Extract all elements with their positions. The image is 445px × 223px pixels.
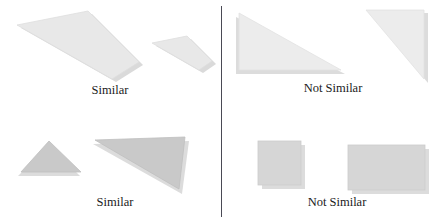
small-triangle-shadow <box>18 145 80 176</box>
large-quadrilateral <box>17 11 139 79</box>
large-triangle-shadow <box>93 141 189 194</box>
caption-bottom-right: Not Similar <box>262 195 412 209</box>
wide-rectangle <box>348 145 425 190</box>
caption-bottom-left: Similar <box>60 195 170 209</box>
right-triangle-tall <box>366 10 424 79</box>
small-square-shadow <box>262 145 305 189</box>
shapes-canvas <box>0 0 445 223</box>
small-triangle <box>21 141 81 172</box>
shape-group-top-left <box>17 11 216 82</box>
caption-top-left: Similar <box>55 83 165 97</box>
small-quadrilateral <box>152 36 212 70</box>
small-quadrilateral-shadow <box>156 39 216 73</box>
shape-group-bottom-left <box>18 137 189 194</box>
shape-group-top-right <box>236 10 428 83</box>
right-triangle-wide-shadow <box>236 17 345 74</box>
caption-top-right: Not Similar <box>258 81 408 95</box>
vertical-divider <box>221 6 222 217</box>
right-triangle-tall-shadow <box>370 13 428 83</box>
wide-rectangle-shadow <box>352 149 429 194</box>
large-triangle <box>95 137 185 189</box>
right-triangle-wide <box>239 13 341 70</box>
similarity-figure: Similar Not Similar Similar Not Similar <box>0 0 445 223</box>
large-quadrilateral-shadow <box>21 14 143 82</box>
shape-group-bottom-right <box>258 141 429 194</box>
small-square <box>258 141 301 185</box>
